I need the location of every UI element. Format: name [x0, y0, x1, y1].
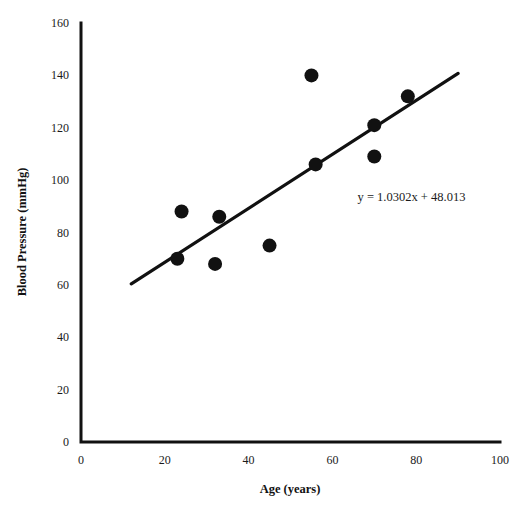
- x-axis-title: Age (years): [260, 482, 321, 496]
- x-tick-label: 20: [159, 453, 171, 467]
- y-tick-label: 120: [51, 121, 69, 135]
- x-tick-label: 40: [243, 453, 255, 467]
- data-point: [309, 157, 323, 171]
- y-tick-label: 160: [51, 16, 69, 30]
- data-point: [170, 252, 184, 266]
- data-point: [212, 210, 226, 224]
- y-tick-label: 0: [63, 435, 69, 449]
- x-tick-label: 100: [491, 453, 509, 467]
- scatter-chart: 020406080100120140160 020406080100 y = 1…: [0, 0, 526, 517]
- y-tick-label: 60: [57, 278, 69, 292]
- data-point: [304, 68, 318, 82]
- x-tick-label: 80: [410, 453, 422, 467]
- y-tick-label: 20: [57, 383, 69, 397]
- data-point: [367, 118, 381, 132]
- data-point: [401, 89, 415, 103]
- data-point: [367, 150, 381, 164]
- y-tick-label: 100: [51, 173, 69, 187]
- y-tick-label: 140: [51, 68, 69, 82]
- chart-page: 020406080100120140160 020406080100 y = 1…: [0, 0, 526, 517]
- data-point-group: [170, 68, 414, 271]
- regression-trendline: [131, 73, 458, 283]
- data-point: [175, 205, 189, 219]
- data-point: [208, 257, 222, 271]
- regression-equation-label: y = 1.0302x + 48.013: [358, 190, 466, 204]
- x-tick-label: 0: [78, 453, 84, 467]
- x-axis-tick-labels: 020406080100: [78, 453, 509, 467]
- y-tick-label: 80: [57, 226, 69, 240]
- data-point: [263, 239, 277, 253]
- y-axis-title: Blood Pressure (mmHg): [15, 168, 29, 297]
- y-tick-label: 40: [57, 330, 69, 344]
- y-axis-tick-labels: 020406080100120140160: [51, 16, 69, 449]
- x-tick-label: 60: [326, 453, 338, 467]
